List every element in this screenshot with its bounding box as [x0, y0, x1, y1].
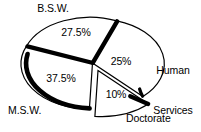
- pie-chart: 27.5% 25% 10% 37.5% B.S.W. Human Service…: [0, 0, 201, 132]
- slice-value-msw: 37.5%: [36, 73, 86, 85]
- slice-value-doctorate: 10%: [100, 89, 132, 101]
- slice-value-bsw: 27.5%: [52, 27, 100, 39]
- slice-value-human-services-degree: 25%: [103, 56, 139, 68]
- slice-label-bsw: B.S.W.: [27, 3, 79, 15]
- slice-label-doctorate: Doctorate: [126, 113, 192, 125]
- slice-label-human-services-degree-line-1: Human: [146, 64, 200, 77]
- slice-label-msw: M.S.W.: [8, 105, 60, 117]
